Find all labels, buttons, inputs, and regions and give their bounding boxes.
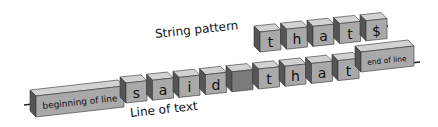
pattern-char: h xyxy=(293,31,302,47)
pattern-char: t xyxy=(347,26,353,42)
text-char: t xyxy=(346,63,352,79)
text-char: a xyxy=(318,65,327,81)
string-pattern-label: String pattern xyxy=(154,18,239,41)
text-char-box xyxy=(226,64,253,92)
text-char: i xyxy=(188,79,192,95)
text-char-box: s xyxy=(120,75,147,103)
pattern-char-box: t xyxy=(254,24,281,52)
text-char: s xyxy=(133,85,140,101)
pattern-char-box: h xyxy=(281,21,308,49)
text-char-box: t xyxy=(253,61,280,89)
text-char-box: h xyxy=(279,58,306,86)
regex-diagram: beginning of line said that that$ end of… xyxy=(0,0,438,127)
text-char: t xyxy=(266,71,272,87)
text-char: a xyxy=(159,82,168,98)
end-of-line-box: end of line xyxy=(355,40,414,72)
pattern-char: t xyxy=(268,34,274,50)
pattern-char: a xyxy=(319,28,328,44)
pattern-char-box: $ xyxy=(360,13,387,41)
pattern-char-box: a xyxy=(307,18,334,46)
text-char-box: i xyxy=(173,69,200,97)
text-char: h xyxy=(291,68,300,84)
pattern-char-box: t xyxy=(334,15,361,43)
text-char: d xyxy=(212,77,221,93)
line-of-text-label: Line of text xyxy=(129,99,198,120)
text-char-box: d xyxy=(200,66,227,94)
text-char-box: a xyxy=(147,72,174,100)
pattern-char: $ xyxy=(372,23,381,39)
beginning-of-line-box: beginning of line xyxy=(30,80,124,117)
text-char-box: a xyxy=(306,55,333,83)
